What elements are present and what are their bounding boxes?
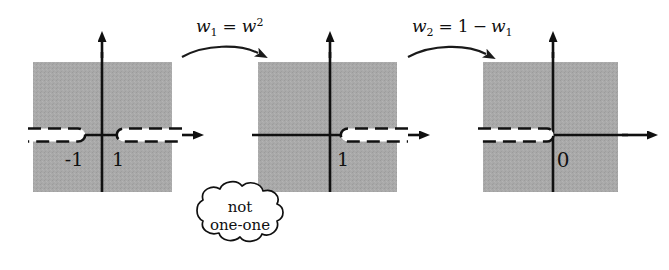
arrow-2-const: 1	[458, 16, 469, 36]
panel-w1-right-cut	[341, 129, 408, 142]
panel-w1: 1	[252, 41, 420, 192]
arrow-1-rhs-sup: 2	[256, 16, 263, 29]
panel-w2-label-zero: 0	[557, 148, 570, 172]
arrow-1-lhs-sub: 1	[211, 26, 218, 39]
panel-w-right-cut	[117, 129, 182, 142]
panel-w1-label-one: 1	[337, 148, 349, 170]
arrow-2-lhs-sub: 2	[427, 26, 434, 39]
arrow-2-lhs: w	[412, 16, 427, 36]
arrow-1-lhs: w	[196, 16, 211, 36]
figure-canvas: -1 1 1 0	[0, 0, 669, 270]
panel-w2-shaded-region	[483, 62, 618, 192]
panel-w2-left-cut	[478, 129, 554, 142]
svg-text:w1=w2: w1=w2	[196, 16, 263, 39]
arrow-2-eq: =	[439, 16, 453, 36]
arrow-1-rhs: w	[242, 16, 257, 36]
cloud-callout: not one-one	[197, 182, 283, 242]
cloud-callout-line-1: not	[228, 198, 253, 216]
panel-w: -1 1	[28, 41, 194, 192]
arrow-1-eq: =	[223, 16, 237, 36]
arrow-2-minus: −	[473, 16, 487, 36]
arrow-1-formula: w1=w2	[196, 16, 263, 39]
arrow-2-rhs-sub: 1	[505, 26, 512, 39]
panel-w-left-cut	[28, 129, 85, 142]
arrow-2-rhs: w	[491, 16, 506, 36]
panel-w1-shaded-region	[258, 62, 397, 192]
cloud-callout-line-2: one-one	[210, 216, 270, 234]
panel-w-label-one: 1	[112, 148, 124, 170]
panel-w-label-minus-one: -1	[65, 148, 84, 170]
